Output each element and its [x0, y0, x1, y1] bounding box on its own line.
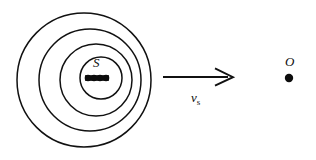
source-positions-group	[85, 75, 110, 82]
velocity-label: vs	[191, 91, 200, 107]
doppler-effect-figure: S O vs	[0, 0, 316, 160]
wavefront-group	[17, 13, 151, 147]
source-label: S	[93, 56, 100, 69]
wavefront-1-outermost	[17, 13, 151, 147]
velocity-arrow	[163, 68, 233, 85]
velocity-subscript: s	[197, 97, 201, 107]
observer-label: O	[285, 55, 294, 68]
figure-canvas	[0, 0, 316, 160]
observer-point	[285, 74, 293, 82]
source-positions-connector	[85, 75, 109, 81]
